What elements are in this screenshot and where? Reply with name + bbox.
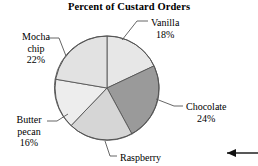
slice-label-mocha-name: Mocha <box>22 31 50 42</box>
slice-label-butter-name: Butter <box>17 114 42 125</box>
slice-label-mocha-percent: 22% <box>12 54 60 66</box>
slice-label-vanilla: Vanilla 18% <box>151 17 179 40</box>
slice-label-butter-percent: 16% <box>4 137 54 149</box>
chart-page: Percent of Custard Orders Vanilla 18% Ch… <box>0 0 258 166</box>
slice-label-mocha-chip: Mocha chip 22% <box>12 31 60 66</box>
slice-label-mocha-name-line2: chip <box>12 43 60 55</box>
slice-label-vanilla-percent: 18% <box>151 29 179 41</box>
slice-label-raspberry: Raspberry <box>120 152 161 164</box>
slice-label-chocolate-percent: 24% <box>186 113 227 125</box>
slice-label-chocolate: Chocolate 24% <box>186 101 227 124</box>
pie-slice-mocha-chip <box>55 36 107 88</box>
slice-label-butter-pecan: Butter pecan 16% <box>4 114 54 149</box>
slice-label-butter-name-line2: pecan <box>4 126 54 138</box>
slice-label-chocolate-name: Chocolate <box>186 101 227 112</box>
slice-label-raspberry-name: Raspberry <box>120 152 161 163</box>
leader-line-vanilla <box>122 21 148 40</box>
leader-line-chocolate <box>156 99 183 106</box>
slice-label-vanilla-name: Vanilla <box>151 17 179 28</box>
left-arrow-icon <box>227 149 258 157</box>
leader-line-raspberry <box>105 141 117 156</box>
